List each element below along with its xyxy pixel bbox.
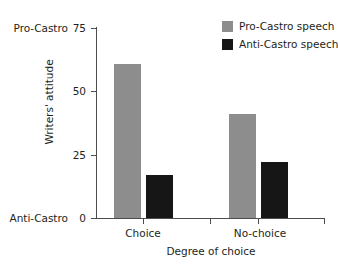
y-axis-title: Writers' attitude bbox=[44, 42, 55, 162]
legend-label-anti-castro: Anti-Castro speech bbox=[239, 39, 338, 50]
legend-swatch-pro-castro bbox=[222, 21, 233, 32]
x-tick-end bbox=[324, 219, 325, 224]
y-tick-0 bbox=[91, 218, 97, 219]
x-tick-choice bbox=[143, 219, 144, 224]
legend-item-pro-castro: Pro-Castro speech bbox=[222, 21, 338, 32]
legend-label-pro-castro: Pro-Castro speech bbox=[239, 21, 334, 32]
x-tick-no-choice bbox=[258, 219, 259, 224]
x-label-no-choice: No-choice bbox=[220, 228, 300, 239]
y-tick-label-75: 75 bbox=[73, 23, 86, 34]
y-axis-endpoint-low-label: Anti-Castro bbox=[2, 213, 68, 224]
bar-choice-anti-castro bbox=[146, 175, 173, 218]
bar-choice-pro-castro bbox=[114, 64, 141, 219]
y-tick-label-25: 25 bbox=[73, 150, 86, 161]
y-tick-label-50: 50 bbox=[73, 86, 86, 97]
x-axis-title: Degree of choice bbox=[97, 246, 325, 257]
y-axis-endpoint-high-label: Pro-Castro bbox=[6, 23, 68, 34]
legend-item-anti-castro: Anti-Castro speech bbox=[222, 39, 338, 50]
x-tick-middle bbox=[210, 219, 211, 224]
legend: Pro-Castro speech Anti-Castro speech bbox=[222, 21, 338, 57]
legend-swatch-anti-castro bbox=[222, 39, 233, 50]
bar-no-choice-anti-castro bbox=[261, 162, 288, 218]
bar-no-choice-pro-castro bbox=[229, 114, 256, 218]
y-tick-label-0: 0 bbox=[79, 213, 86, 224]
x-label-choice: Choice bbox=[108, 228, 178, 239]
